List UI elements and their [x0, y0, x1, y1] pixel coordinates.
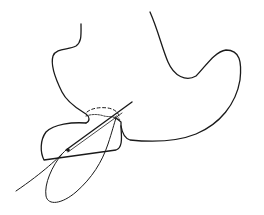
needle	[66, 102, 132, 152]
stomach-outline	[52, 12, 240, 141]
tissue-flap	[41, 115, 121, 161]
illustration	[0, 0, 264, 215]
suture-thread	[16, 118, 116, 202]
